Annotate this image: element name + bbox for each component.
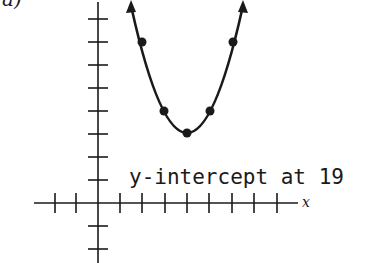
x-axis-label: x [302,194,310,210]
parabola-curve [132,10,242,133]
arrow-up-left-icon [126,0,136,13]
parabola-graph: a) x y-interce [0,0,372,263]
y-intercept-annotation: y-intercept at 19 [129,165,344,189]
point-2-7 [138,38,147,47]
point-3-4 [160,107,169,116]
point-6-7 [229,38,238,47]
arrow-up-right-icon [238,0,248,13]
part-label: a) [2,0,22,11]
point-5-4 [206,107,215,116]
vertex-point [183,129,192,138]
